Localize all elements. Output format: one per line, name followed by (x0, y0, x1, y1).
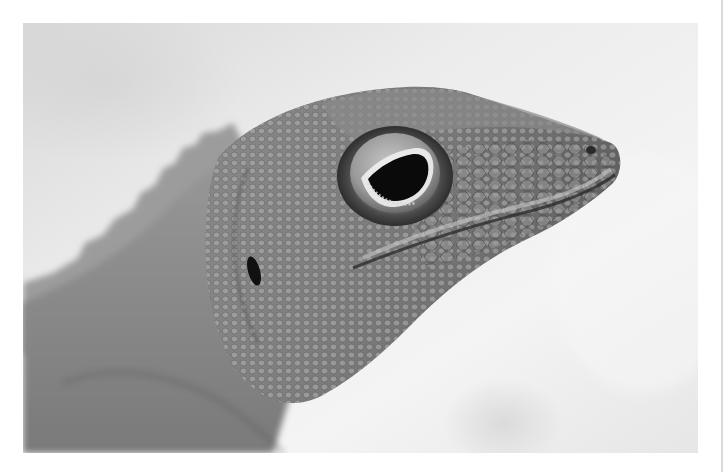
photo-frame: Grayscale macro photo of an anole lizard… (0, 0, 727, 472)
edge-line (721, 0, 723, 472)
lizard-photo (23, 23, 698, 453)
lizard-illustration (23, 23, 698, 453)
nostril (586, 146, 596, 154)
eye (337, 126, 453, 226)
